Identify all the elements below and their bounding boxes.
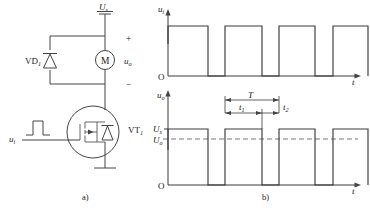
off-time-dimension [262, 111, 279, 115]
plot-top [165, 9, 368, 79]
freewheel-diode-symbol [43, 54, 57, 69]
diode-label: VD1 [25, 56, 41, 67]
on-time-arrow-left [225, 111, 231, 115]
bottom-x-axis-arrow [355, 182, 362, 187]
plot-bottom [163, 90, 368, 188]
plus-terminal-label: + [126, 34, 131, 44]
uo-level-label: Uo [153, 135, 163, 146]
output-voltage-label: uo [124, 56, 132, 67]
top-y-axis-arrow [165, 9, 170, 16]
on-time-label: t1 [239, 102, 245, 113]
motor-label: M [101, 56, 110, 66]
on-time-arrow-right [256, 111, 262, 115]
bottom-y-axis-arrow [165, 90, 170, 97]
circuit-diagram [22, 14, 119, 168]
off-time-arrow-right [273, 111, 279, 115]
us-level-label: Us [153, 124, 163, 135]
figure-svg: Us VD1 M + uo − VT1 ui a) [0, 0, 370, 215]
period-label: T [248, 90, 254, 100]
top-y-axis-label: ui [158, 4, 165, 15]
caption-a: a) [82, 192, 89, 202]
transistor-label: VT1 [128, 125, 143, 136]
body-arrow [88, 130, 94, 135]
input-pulse-glyph [26, 121, 50, 135]
input-signal-label: ui [9, 134, 16, 145]
off-time-label: t2 [283, 102, 289, 113]
period-arrow-left [225, 98, 231, 102]
top-origin-label: O [158, 72, 165, 82]
body-diode-symbol [102, 126, 114, 141]
period-arrow-right [273, 98, 279, 102]
bottom-y-axis-label: uo [157, 90, 165, 101]
top-x-axis-arrow [355, 73, 362, 78]
bottom-origin-label: O [158, 181, 165, 191]
minus-terminal-label: − [126, 80, 131, 90]
figure-root: Us VD1 M + uo − VT1 ui a) [0, 0, 370, 215]
bottom-waveform [168, 129, 368, 185]
mosfet-symbol [67, 122, 105, 142]
top-waveform [168, 26, 368, 76]
caption-b: b) [262, 192, 269, 202]
